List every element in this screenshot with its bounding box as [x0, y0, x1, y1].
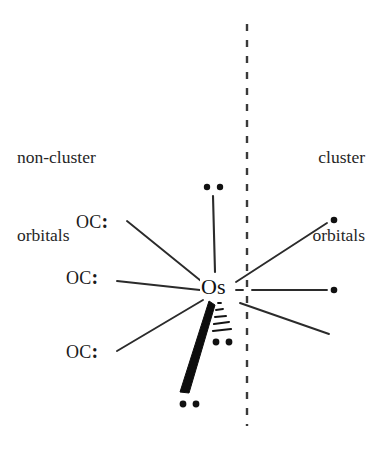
ligand-formula-lower-left: OC — [66, 342, 91, 362]
ligand-label-lower-left: OC: — [66, 342, 98, 361]
center-atom-label: Os — [200, 276, 226, 298]
ligand-label-middle-left: OC: — [66, 268, 98, 287]
bold-wedge-lone-pair-bond — [180, 301, 215, 393]
non-cluster-label-line1: non-cluster — [17, 144, 96, 170]
middle-left-carbonyl-bond — [117, 281, 200, 290]
ligand-formula-middle-left: OC — [66, 268, 91, 288]
top-lone-pair-electron-right — [217, 184, 223, 190]
hashed-lone-pair-electron-left — [213, 339, 220, 346]
hashed-lone-pair-electron-right — [226, 339, 233, 346]
lower-left-carbonyl-bond — [117, 300, 203, 351]
top-lone-pair-bond — [213, 196, 215, 272]
top-lone-pair-electron-left — [204, 184, 210, 190]
upper-left-carbonyl-bond — [127, 221, 206, 285]
cluster-label-line2: orbitals — [313, 222, 366, 248]
cluster-label-line1: cluster — [313, 144, 366, 170]
ligand-label-upper-left: OC: — [76, 212, 108, 231]
diagram-canvas: non-cluster orbitals cluster orbitals OC… — [0, 0, 373, 450]
ligand-lone-pair-middle-left: : — [91, 266, 98, 288]
wedge-lone-pair-electron-right — [193, 401, 200, 408]
ligand-lone-pair-upper-left: : — [101, 210, 108, 232]
wedge-lone-pair-electron-left — [180, 401, 187, 408]
lower-right-cluster-orbital — [240, 303, 329, 334]
ligand-lone-pair-lower-left: : — [91, 340, 98, 362]
ligand-formula-upper-left: OC — [76, 212, 101, 232]
cluster-orbitals-label: cluster orbitals — [313, 92, 366, 300]
hashed-wedge-lone-pair-bond — [213, 303, 231, 331]
